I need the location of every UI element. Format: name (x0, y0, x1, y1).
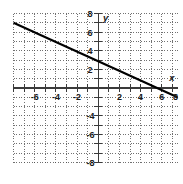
y-tick-label-neg8: -8 (86, 158, 94, 168)
x-tick-label-neg4: -4 (52, 92, 60, 102)
y-tick-label-neg4: -4 (86, 111, 94, 121)
graph-screenshot: y x 8 6 4 2 -4 -6 -8 -6 -4 -2 2 4 6 8 (0, 0, 183, 184)
x-tick-label-6: 6 (159, 92, 164, 102)
y-tick-label-neg6: -6 (86, 130, 94, 140)
x-tick-label-8: 8 (173, 92, 178, 102)
y-tick-label-6: 6 (87, 28, 92, 38)
x-tick-label-neg2: -2 (73, 92, 81, 102)
coordinate-plane-chart: y x 8 6 4 2 -4 -6 -8 -6 -4 -2 2 4 6 8 (0, 0, 183, 184)
y-tick-label-8: 8 (87, 9, 92, 19)
x-tick-label-neg6: -6 (31, 92, 39, 102)
y-tick-label-2: 2 (87, 65, 92, 75)
y-tick-label-4: 4 (87, 46, 92, 56)
x-tick-label-2: 2 (117, 92, 122, 102)
y-axis-label: y (102, 12, 109, 23)
x-tick-label-4: 4 (138, 92, 143, 102)
x-axis-label: x (168, 72, 175, 83)
